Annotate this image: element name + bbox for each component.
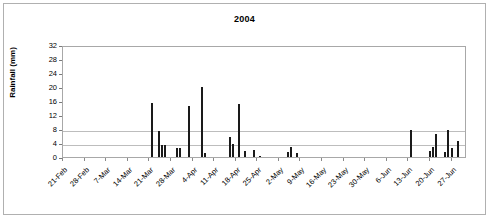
- bar: [429, 151, 431, 157]
- x-tick-mark: [213, 158, 214, 161]
- bar: [432, 147, 434, 157]
- bar: [164, 145, 166, 157]
- x-tick-mark: [62, 158, 63, 161]
- bar: [151, 103, 153, 157]
- y-tick-label: 0: [35, 154, 57, 162]
- bar: [229, 137, 231, 157]
- bar: [290, 147, 292, 157]
- x-tick-mark: [170, 158, 171, 161]
- bar: [188, 106, 190, 157]
- x-tick-mark: [321, 158, 322, 161]
- bar: [253, 150, 255, 157]
- y-tick-label: 8: [35, 126, 57, 134]
- bar: [176, 148, 178, 157]
- bar: [444, 152, 446, 157]
- x-tick-mark: [84, 158, 85, 161]
- y-tick-label: 16: [35, 98, 57, 106]
- bar: [201, 87, 203, 157]
- bar: [447, 130, 449, 157]
- x-tick-mark: [105, 158, 106, 161]
- y-tick-label: 28: [35, 56, 57, 64]
- chart-title: 2004: [0, 14, 489, 24]
- x-tick-mark: [386, 158, 387, 161]
- bar: [204, 153, 206, 157]
- y-tick-label: 12: [35, 112, 57, 120]
- x-tick-mark: [364, 158, 365, 161]
- bar: [232, 144, 234, 157]
- bar: [161, 145, 163, 157]
- plot-area: [62, 46, 466, 158]
- gridline: [63, 131, 465, 132]
- x-tick-mark: [451, 158, 452, 161]
- y-tick-label: 24: [35, 70, 57, 78]
- bar: [451, 148, 453, 157]
- y-axis-title: Rainfall (mm): [8, 35, 17, 111]
- x-tick-mark: [299, 158, 300, 161]
- bar: [238, 104, 240, 157]
- x-tick-mark: [429, 158, 430, 161]
- x-tick-mark: [343, 158, 344, 161]
- x-tick-mark: [127, 158, 128, 161]
- y-tick-label: 20: [35, 84, 57, 92]
- chart-figure: 2004 Rainfall (mm) 048121620242832 21-Fe…: [0, 0, 489, 218]
- x-tick-mark: [192, 158, 193, 161]
- x-tick-mark: [235, 158, 236, 161]
- bar: [259, 156, 261, 157]
- bar: [179, 148, 181, 157]
- x-tick-mark: [148, 158, 149, 161]
- x-tick-mark: [407, 158, 408, 161]
- y-tick-label: 32: [35, 42, 57, 50]
- bar: [410, 130, 412, 157]
- bar: [457, 141, 459, 157]
- y-tick-label: 4: [35, 140, 57, 148]
- bar: [287, 152, 289, 157]
- bar: [158, 131, 160, 157]
- bar: [244, 151, 246, 157]
- bar: [296, 153, 298, 157]
- gridline: [63, 145, 465, 146]
- x-tick-mark: [278, 158, 279, 161]
- x-tick-mark: [256, 158, 257, 161]
- bar: [435, 134, 437, 157]
